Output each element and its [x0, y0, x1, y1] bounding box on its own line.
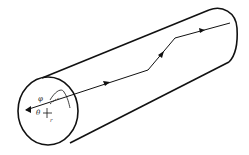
- ray-arrows: [25, 28, 205, 113]
- arrow-icon: [103, 81, 110, 86]
- cylinder-far-end-cap: [209, 8, 237, 62]
- phi-label: φ: [38, 95, 43, 103]
- angle-construction: [43, 90, 70, 118]
- cylinder-top-edge: [42, 10, 209, 78]
- arrow-icon: [25, 106, 31, 113]
- r-label: r: [50, 117, 53, 123]
- fiber-diagram: φ θ r r: [0, 0, 249, 155]
- arrow-icon: [199, 28, 205, 33]
- cylinder-bottom-edge: [70, 62, 229, 143]
- theta-label: θ: [36, 109, 41, 117]
